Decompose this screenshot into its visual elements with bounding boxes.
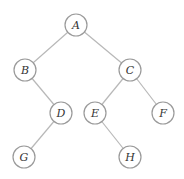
tree-node-c: C (119, 59, 141, 81)
node-label: A (71, 19, 80, 32)
node-label: D (56, 107, 66, 120)
node-label: F (158, 107, 167, 120)
tree-node-d: D (50, 102, 72, 124)
tree-node-h: H (119, 146, 141, 168)
tree-node-g: G (13, 146, 35, 168)
tree-node-e: E (84, 102, 106, 124)
tree-node-f: F (152, 102, 174, 124)
tree-node-a: A (65, 14, 87, 36)
node-label: B (20, 64, 29, 77)
node-label: H (124, 151, 135, 164)
binary-tree-diagram: A B C D E F G H (0, 0, 184, 179)
nodes: A B C D E F G H (13, 14, 174, 168)
node-label: C (126, 64, 135, 77)
node-label: E (90, 107, 99, 120)
node-label: G (20, 151, 29, 164)
edges (24, 25, 163, 157)
tree-node-b: B (14, 59, 36, 81)
